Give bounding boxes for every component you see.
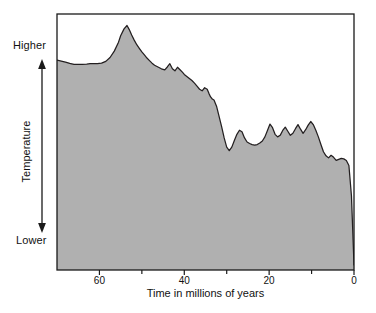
temperature-area-fill xyxy=(57,26,354,270)
arrow-head-down-icon xyxy=(38,223,46,233)
temperature-direction-arrow xyxy=(38,59,46,233)
temperature-chart-figure: Higher Lower Temperature Time in million… xyxy=(0,0,376,313)
x-axis-ticks xyxy=(99,270,354,275)
arrow-head-up-icon xyxy=(38,59,46,69)
chart-canvas xyxy=(0,0,376,313)
